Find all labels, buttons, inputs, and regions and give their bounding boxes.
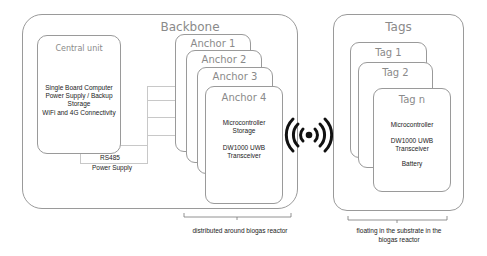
anchor-4-title: Anchor 4 <box>206 92 282 103</box>
central-unit-box: Central unit Single Board Computer Power… <box>37 35 121 154</box>
central-unit-title: Central unit <box>38 44 120 53</box>
tag-n-specs-c: Battery <box>374 160 450 168</box>
spec-transceiver: Transceiver <box>206 152 282 160</box>
spec-transceiver: Transceiver <box>374 145 450 153</box>
anchor-2-title: Anchor 2 <box>187 54 261 65</box>
tag-n-title: Tag n <box>374 94 450 105</box>
wireless-signal-icon <box>286 112 332 158</box>
connector-vertical <box>147 86 148 146</box>
bus-left <box>80 153 81 163</box>
backbone-brace <box>183 213 293 225</box>
tag-n-specs-b: DW1000 UWB Transceiver <box>374 137 450 153</box>
spec-microcontroller: Microcontroller <box>206 119 282 127</box>
spec-storage: Storage <box>38 100 120 108</box>
tags-caption: floating in the substrate in the biogas … <box>340 227 458 244</box>
spec-connectivity: WiFi and 4G Connectivity <box>38 109 120 117</box>
spec-battery: Battery <box>374 160 450 168</box>
spec-power: Power Supply / Backup <box>38 92 120 100</box>
anchor-1-title: Anchor 1 <box>176 38 250 49</box>
connector-to-anchor-1 <box>147 86 175 87</box>
tag-n-specs-a: Microcontroller <box>374 121 450 129</box>
anchor-4-specs-b: DW1000 UWB Transceiver <box>206 144 282 160</box>
spec-sbc: Single Board Computer <box>38 84 120 92</box>
anchor-4-box: Anchor 4 Microcontroller Storage DW1000 … <box>205 86 283 204</box>
tag-n-box: Tag n Microcontroller DW1000 UWB Transce… <box>373 88 451 192</box>
bus-right <box>147 145 148 164</box>
spec-uwb: DW1000 UWB <box>206 144 282 152</box>
tags-title: Tags <box>334 20 463 34</box>
backbone-caption: distributed around biogas reactor <box>180 227 300 236</box>
tags-caption-line-1: floating in the substrate in the <box>340 227 458 236</box>
power-supply-label: Power Supply <box>84 164 140 173</box>
spec-uwb: DW1000 UWB <box>374 137 450 145</box>
rs485-label: RS485 <box>90 154 130 163</box>
central-unit-specs: Single Board Computer Power Supply / Bac… <box>38 84 120 117</box>
tag-2-title: Tag 2 <box>359 67 432 78</box>
spec-microcontroller: Microcontroller <box>374 121 450 129</box>
anchor-3-title: Anchor 3 <box>198 71 272 82</box>
tag-1-title: Tag 1 <box>351 47 426 58</box>
backbone-title: Backbone <box>83 20 297 34</box>
tags-caption-line-2: biogas reactor <box>340 236 458 245</box>
spec-storage: Storage <box>206 127 282 135</box>
anchor-4-specs-a: Microcontroller Storage <box>206 119 282 135</box>
